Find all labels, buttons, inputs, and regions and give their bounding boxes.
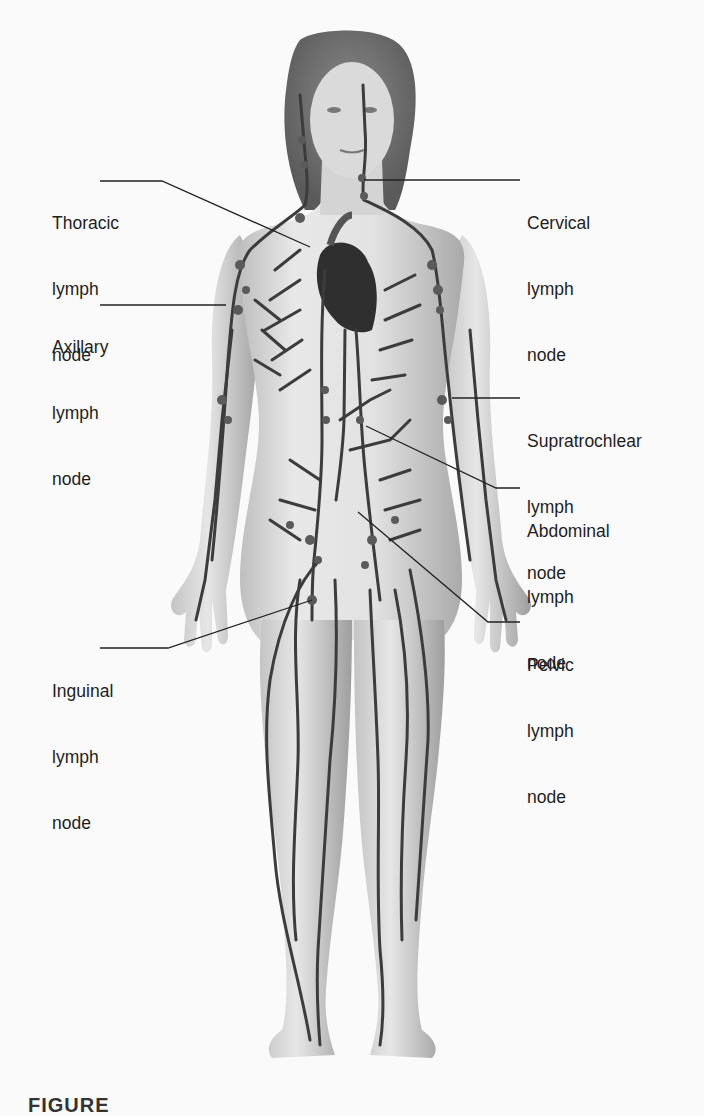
label-line: node xyxy=(52,812,113,834)
label-axillary-lymph-node: Axillary lymph node xyxy=(52,292,108,534)
label-pelvic-lymph-node: Pelvic lymph node xyxy=(527,610,574,852)
label-line: Abdominal xyxy=(527,520,610,542)
label-line: Cervical xyxy=(527,212,590,234)
label-line: Inguinal xyxy=(52,680,113,702)
label-line: lymph xyxy=(52,402,108,424)
label-line: node xyxy=(52,468,108,490)
label-line: node xyxy=(527,786,574,808)
label-line: Pelvic xyxy=(527,654,574,676)
face xyxy=(310,62,394,178)
label-line: Supratrochlear xyxy=(527,430,642,452)
label-line: Axillary xyxy=(52,336,108,358)
label-line: lymph xyxy=(52,746,113,768)
right-leg xyxy=(354,620,445,1058)
label-line: lymph xyxy=(527,720,574,742)
label-cervical-lymph-node: Cervical lymph node xyxy=(527,168,590,410)
label-line: Thoracic xyxy=(52,212,119,234)
label-inguinal-lymph-node: Inguinal lymph node xyxy=(52,636,113,878)
label-line: node xyxy=(527,344,590,366)
label-line: lymph xyxy=(527,586,610,608)
figure-caption: FIGURE xyxy=(28,1094,110,1116)
label-line: lymph xyxy=(527,278,590,300)
